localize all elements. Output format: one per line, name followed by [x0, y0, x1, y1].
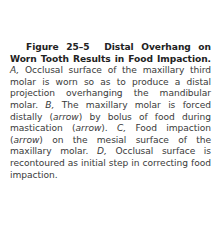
part-b-arrow-1: arrow: [53, 112, 79, 122]
figure-label: Figure 25–5: [26, 42, 90, 52]
part-c-text-before: Food impaction: [135, 123, 211, 133]
part-d-marker: D,: [97, 146, 107, 156]
part-b-arrow-2: arrow: [76, 123, 102, 133]
part-b-marker: B,: [45, 100, 54, 110]
part-b-text-end: .: [105, 123, 108, 133]
part-c-marker: C,: [117, 123, 126, 133]
figure-caption: Figure 25–5 Distal Overhang on Worn Toot…: [10, 42, 211, 181]
part-c-arrow: arrow: [14, 135, 40, 145]
part-a-marker: A,: [10, 65, 19, 75]
